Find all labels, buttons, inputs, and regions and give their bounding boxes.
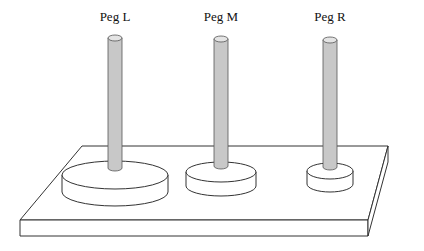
peg-l-label: Peg L <box>100 9 131 24</box>
peg-l-group: Peg L <box>62 9 168 206</box>
peg-m-label: Peg M <box>204 9 239 24</box>
peg-m-group: Peg M <box>186 9 256 196</box>
peg-l <box>108 35 122 171</box>
tower-of-hanoi-diagram: Peg L Peg M Peg R <box>0 0 424 251</box>
peg-m <box>214 36 228 169</box>
base-front-face <box>20 220 368 236</box>
peg-r <box>323 37 337 170</box>
peg-r-label: Peg R <box>314 9 346 24</box>
